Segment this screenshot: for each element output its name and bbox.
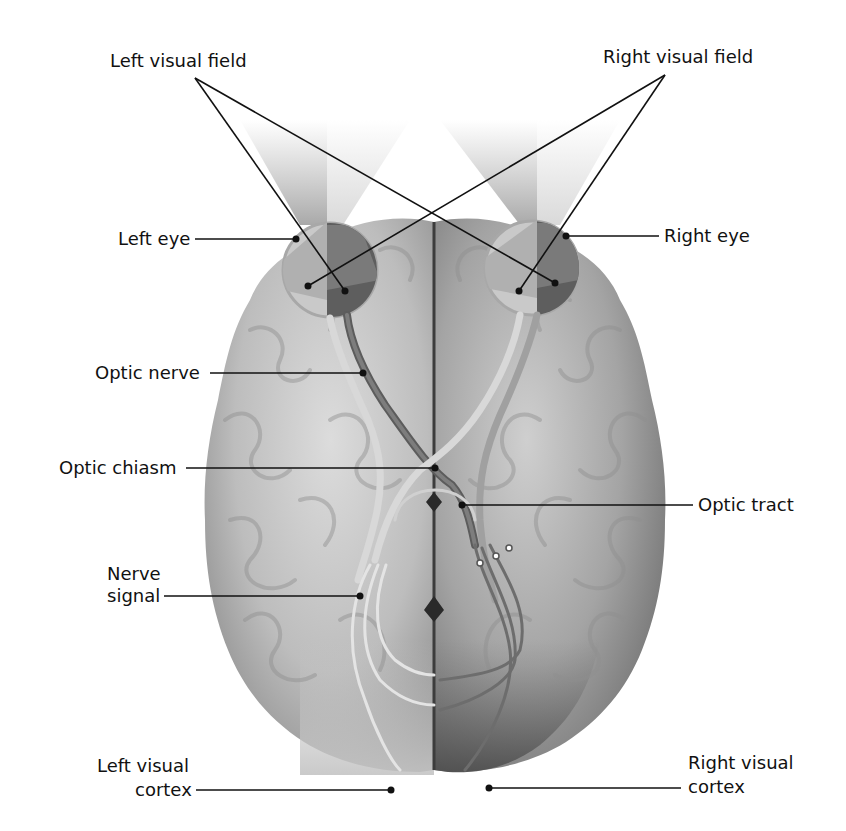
label-right-visual-cortex-line1: Right visual [688, 752, 794, 774]
label-left-eye: Left eye [118, 228, 190, 250]
label-right-eye: Right eye [664, 225, 750, 247]
diagram-canvas [0, 0, 846, 831]
label-optic-nerve: Optic nerve [95, 362, 200, 384]
label-optic-tract: Optic tract [698, 494, 794, 516]
label-right-visual-cortex-line2: cortex [688, 776, 745, 798]
label-right-visual-field: Right visual field [603, 46, 753, 68]
label-nerve-signal-line2: signal [107, 585, 160, 607]
visual-pathway-diagram: Left visual field Right visual field Lef… [0, 0, 846, 831]
label-left-visual-cortex-line2: cortex [135, 779, 192, 801]
label-left-visual-cortex-line1: Left visual [97, 755, 189, 777]
label-optic-chiasm: Optic chiasm [59, 457, 177, 479]
label-left-visual-field: Left visual field [110, 50, 247, 72]
label-nerve-signal-line1: Nerve [107, 563, 161, 585]
